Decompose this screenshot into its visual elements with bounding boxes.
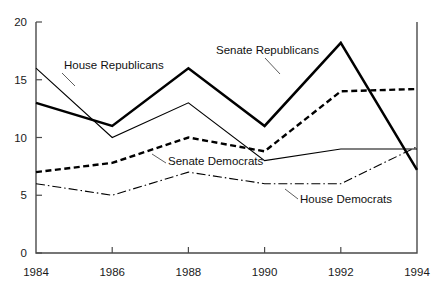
- series-label-house-republicans: House Republicans: [64, 59, 164, 71]
- series-line-house-republicans: [36, 68, 417, 160]
- annotation-leader-lines: [62, 58, 298, 199]
- y-tick-label-0: 0: [21, 247, 27, 259]
- y-tick-label-10: 10: [14, 132, 27, 144]
- y-tick-label-20: 20: [14, 16, 27, 28]
- leader-line-senate-republicans: [265, 58, 280, 74]
- x-axis-tick-labels: 198419861988199019921994: [23, 266, 430, 278]
- y-tick-label-5: 5: [21, 189, 27, 201]
- y-tick-label-15: 15: [14, 74, 27, 86]
- x-tick-label-1992: 1992: [328, 266, 354, 278]
- x-tick-label-1988: 1988: [176, 266, 202, 278]
- x-axis-ticks: [112, 247, 341, 253]
- series-label-senate-democrats: Senate Democrats: [168, 155, 263, 167]
- x-tick-label-1990: 1990: [252, 266, 278, 278]
- leader-line-house-republicans: [62, 73, 75, 86]
- line-chart: 05101520 198419861988199019921994 House …: [0, 0, 444, 294]
- x-tick-label-1986: 1986: [99, 266, 125, 278]
- series-label-house-democrats: House Democrats: [300, 193, 392, 205]
- y-axis-tick-labels: 05101520: [14, 16, 27, 259]
- chart-container: 05101520 198419861988199019921994 House …: [0, 0, 444, 294]
- series-label-senate-republicans: Senate Republicans: [216, 44, 319, 56]
- leader-line-house-democrats: [285, 189, 298, 199]
- x-tick-label-1984: 1984: [23, 266, 49, 278]
- y-axis-ticks: [36, 22, 42, 253]
- leader-line-senate-democrats: [152, 154, 166, 163]
- plot-frame: [36, 22, 417, 253]
- x-tick-label-1994: 1994: [404, 266, 430, 278]
